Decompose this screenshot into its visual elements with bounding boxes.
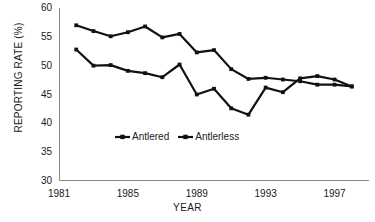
series-line-antlerless [76,50,352,115]
data-point-marker [333,83,337,87]
data-point-marker [195,51,199,55]
data-point-marker [315,74,319,78]
data-point-marker [229,67,233,71]
y-tick-label: 30 [26,175,52,186]
chart-svg [59,8,369,181]
data-point-marker [195,93,199,97]
x-tick-label: 1985 [106,188,150,199]
data-point-marker [143,71,147,75]
data-point-marker [247,113,251,117]
data-point-marker [109,63,113,67]
data-point-marker [247,77,251,81]
data-point-marker [178,32,182,36]
data-point-marker [126,69,130,73]
data-point-marker [315,83,319,87]
data-point-marker [92,64,96,68]
data-point-marker [143,25,147,29]
x-axis-title: YEAR [0,202,375,213]
y-tick-label: 55 [26,31,52,42]
data-point-marker [74,48,78,52]
y-tick-label: 35 [26,146,52,157]
legend-item-antlerless: Antlerless [178,131,239,142]
x-tick-label: 1993 [244,188,288,199]
legend-item-antlered: Antlered [115,131,169,142]
y-tick-label: 40 [26,117,52,128]
data-point-marker [92,29,96,33]
data-point-marker [109,34,113,38]
data-point-marker [281,90,285,94]
x-tick-label: 1989 [175,188,219,199]
chart-legend: AntleredAntlerless [115,131,239,142]
data-point-marker [350,85,354,89]
data-point-marker [212,87,216,91]
y-tick-label: 50 [26,60,52,71]
legend-marker-icon [115,132,130,142]
data-point-marker [264,76,268,80]
y-tick-label: 45 [26,89,52,100]
y-axis-title: REPORTING RATE (%) [13,8,24,148]
data-point-marker [178,63,182,67]
legend-label: Antlerless [195,131,239,142]
data-point-marker [281,78,285,82]
data-point-marker [74,23,78,27]
data-point-marker [160,36,164,40]
data-point-marker [126,30,130,34]
x-tick-label: 1981 [37,188,81,199]
chart-figure: REPORTING RATE (%) YEAR 30354045505560 1… [0,0,375,222]
plot-area [59,8,369,181]
legend-label: Antlered [132,131,169,142]
data-point-marker [229,106,233,110]
legend-marker-icon [178,132,193,142]
data-point-marker [264,86,268,90]
x-tick-label: 1997 [313,188,357,199]
data-point-marker [298,76,302,80]
y-tick-label: 60 [26,2,52,13]
data-point-marker [160,75,164,79]
data-point-marker [333,78,337,82]
data-point-marker [212,48,216,52]
